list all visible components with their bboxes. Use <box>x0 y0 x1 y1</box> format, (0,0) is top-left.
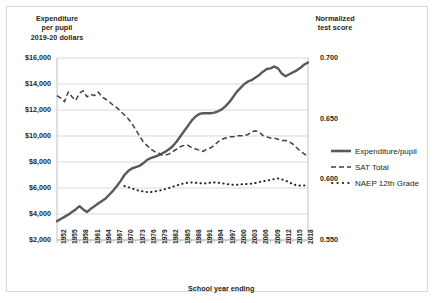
x-tick-label: 1961 <box>94 229 101 244</box>
y-left-tick-label: $4,000 <box>7 209 51 218</box>
legend-swatch-dashed-icon <box>330 162 352 172</box>
y-left-tick-label: $6,000 <box>7 183 51 192</box>
y-right-tick-label: 0.550 <box>320 235 364 244</box>
chart-legend: Expenditure/pupil SAT Total NAEP 12th Gr… <box>330 143 434 191</box>
y-left-tick-label: $2,000 <box>7 235 51 244</box>
y-left-tick-label: $16,000 <box>7 53 51 62</box>
legend-swatch-dotted-icon <box>330 178 352 188</box>
x-tick-label: 1952 <box>60 229 67 244</box>
legend-label-expenditure: Expenditure/pupil <box>355 147 417 156</box>
x-tick-label: 1997 <box>229 229 236 244</box>
x-tick-label: 1985 <box>184 229 191 244</box>
legend-item-sat: SAT Total <box>330 159 434 175</box>
x-tick-label: 2018 <box>307 229 314 244</box>
legend-item-naep: NAEP 12th Grade <box>330 175 434 191</box>
x-tick-label: 1970 <box>127 229 134 244</box>
legend-swatch-solid-icon <box>330 146 352 156</box>
series-line-dashed <box>57 91 308 157</box>
series-line-dotted <box>124 178 308 192</box>
x-tick-label: 1979 <box>161 229 168 244</box>
series-line-solid <box>57 63 308 222</box>
x-axis-title: School year ending <box>188 284 254 293</box>
x-tick-label: 1991 <box>206 229 213 244</box>
chart-figure: Expenditure per pupil 2019-20 dollars No… <box>0 0 436 303</box>
x-tick-label: 2006 <box>262 229 269 244</box>
x-tick-label: 1988 <box>195 229 202 244</box>
x-tick-label: 2012 <box>285 229 292 244</box>
x-tick-label: 1973 <box>139 229 146 244</box>
legend-label-naep: NAEP 12th Grade <box>355 179 419 188</box>
x-tick-label: 1967 <box>116 229 123 244</box>
y-left-tick-label: $12,000 <box>7 105 51 114</box>
x-tick-label: 1964 <box>105 229 112 244</box>
x-tick-label: 2000 <box>240 229 247 244</box>
y-right-tick-label: 0.650 <box>320 114 364 123</box>
legend-label-sat: SAT Total <box>355 163 389 172</box>
x-tick-label: 2003 <box>251 229 258 244</box>
x-tick-label: 1958 <box>82 229 89 244</box>
x-tick-label: 1994 <box>217 229 224 244</box>
legend-item-expenditure: Expenditure/pupil <box>330 143 434 159</box>
x-tick-label: 2009 <box>274 229 281 244</box>
x-tick-label: 1955 <box>71 229 78 244</box>
x-tick-label: 2015 <box>296 229 303 244</box>
y-left-tick-label: $8,000 <box>7 157 51 166</box>
x-tick-label: 1976 <box>150 229 157 244</box>
y-right-tick-label: 0.700 <box>320 53 364 62</box>
y-left-tick-label: $10,000 <box>7 131 51 140</box>
y-left-tick-label: $14,000 <box>7 79 51 88</box>
x-tick-label: 1982 <box>172 229 179 244</box>
